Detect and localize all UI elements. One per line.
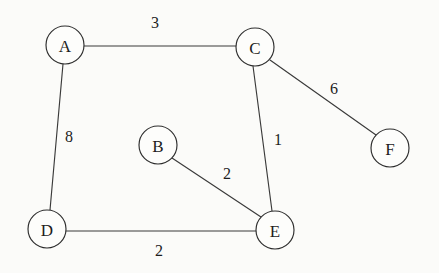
node-b[interactable]: B: [139, 126, 177, 164]
edge-a-d: [50, 64, 63, 210]
edge-weight-b-e: 2: [223, 165, 231, 182]
edge-weight-a-c: 3: [151, 14, 159, 31]
graph-diagram-canvas: A B C D E F 3 8: [0, 0, 439, 273]
node-d-label: D: [41, 221, 53, 240]
node-a-label: A: [59, 37, 72, 56]
node-a[interactable]: A: [46, 26, 84, 64]
edge-weights-layer: 3 8 1 6 2 2: [65, 14, 338, 259]
node-c-label: C: [249, 39, 260, 58]
node-e-label: E: [270, 222, 280, 241]
edge-c-f: [270, 60, 376, 135]
edges-layer: [50, 46, 376, 231]
node-f[interactable]: F: [371, 129, 409, 167]
node-c[interactable]: C: [236, 28, 274, 66]
edge-c-e: [253, 66, 272, 211]
node-d[interactable]: D: [28, 210, 66, 248]
node-b-label: B: [152, 137, 163, 156]
edge-weight-c-e: 1: [274, 131, 282, 148]
graph-svg: A B C D E F 3 8: [0, 0, 439, 273]
edge-weight-c-f: 6: [330, 80, 338, 97]
node-e[interactable]: E: [256, 211, 294, 249]
node-f-label: F: [385, 140, 394, 159]
nodes-layer: A B C D E F: [28, 26, 409, 249]
edge-weight-a-d: 8: [65, 128, 73, 145]
edge-b-e: [172, 158, 261, 217]
edge-weight-d-e: 2: [155, 242, 163, 259]
